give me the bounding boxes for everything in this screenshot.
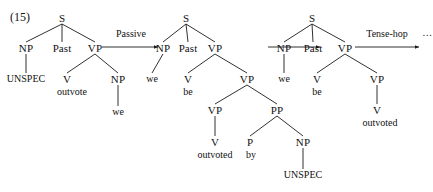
tree-branch bbox=[152, 54, 163, 73]
tree-branch bbox=[215, 85, 247, 104]
tree-branch bbox=[215, 54, 247, 73]
tree-branch bbox=[163, 24, 186, 42]
tree-branch bbox=[317, 54, 345, 73]
tree-leaf-we: we bbox=[146, 74, 158, 84]
tree-node-v: V bbox=[313, 74, 321, 85]
tree-node-p: P bbox=[247, 137, 253, 148]
tree-node-past: Past bbox=[179, 43, 198, 54]
tree-branch bbox=[312, 24, 345, 42]
tree-node-vp: VP bbox=[338, 43, 352, 54]
tree-branch bbox=[67, 54, 95, 73]
tree-leaf-outvoted: outvoted bbox=[363, 118, 398, 128]
tree-leaf-be: be bbox=[312, 87, 321, 97]
tree-node-vp: VP bbox=[208, 43, 222, 54]
arrow-label-tense-hop: Tense-hop bbox=[366, 29, 408, 39]
tree-node-past: Past bbox=[53, 43, 72, 54]
tree-branch bbox=[345, 54, 377, 73]
tree-node-vp: VP bbox=[240, 74, 254, 85]
tree-branch bbox=[95, 54, 118, 73]
tree-node-np: NP bbox=[19, 43, 33, 54]
tree-leaf-by: by bbox=[246, 150, 256, 160]
tree-branch bbox=[247, 85, 277, 104]
tree-leaf-we: we bbox=[112, 107, 124, 117]
tree-node-np: NP bbox=[277, 43, 291, 54]
tree-branch bbox=[312, 24, 313, 42]
tree-leaf-unspec: UNSPEC bbox=[284, 170, 322, 180]
tree-node-np: NP bbox=[296, 137, 310, 148]
tree-branch bbox=[186, 24, 188, 42]
tree-node-v: V bbox=[211, 137, 219, 148]
example-number: (15) bbox=[10, 11, 30, 23]
tree-node-s: S bbox=[59, 13, 65, 24]
tree-branch bbox=[284, 24, 312, 42]
tree-leaf-outvoted: outvoted bbox=[198, 150, 233, 160]
tree-node-past: Past bbox=[304, 43, 323, 54]
tree-leaf-be: be bbox=[183, 87, 192, 97]
tree-branch bbox=[186, 24, 215, 42]
tree-leaf-outvote: outvote bbox=[57, 87, 87, 97]
tree-node-vp: VP bbox=[208, 105, 222, 116]
tree-node-s: S bbox=[309, 13, 315, 24]
arrow-label-passive: Passive bbox=[116, 29, 146, 39]
tree-node-vp: VP bbox=[370, 74, 384, 85]
tree-node-np: NP bbox=[156, 43, 170, 54]
tree-leaf-unspec: UNSPEC bbox=[7, 74, 45, 84]
tree-node-vp: VP bbox=[88, 43, 102, 54]
tree-branch bbox=[26, 24, 62, 42]
tree-branch bbox=[277, 116, 303, 136]
continuation-ellipsis: … bbox=[422, 28, 433, 38]
tree-branch bbox=[62, 24, 95, 42]
tree-leaf-we: we bbox=[278, 74, 290, 84]
tree-branch bbox=[250, 116, 277, 136]
tree-node-np: NP bbox=[111, 74, 125, 85]
tree-node-v: V bbox=[63, 74, 71, 85]
tree-node-s: S bbox=[183, 13, 189, 24]
tree-node-v: V bbox=[373, 105, 381, 116]
tree-node-pp: PP bbox=[271, 105, 283, 116]
syntax-derivation-figure: (15) SNPPastVPUNSPECVoutvoteNPweSNPPastV… bbox=[0, 0, 433, 192]
tree-node-v: V bbox=[184, 74, 192, 85]
tree-branch bbox=[188, 54, 215, 73]
